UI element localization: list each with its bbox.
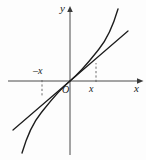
positive-x-tick-label: x — [89, 84, 93, 94]
x-axis-label: x — [134, 83, 139, 94]
graph-canvas — [0, 0, 146, 160]
graph-figure: y x O –x x — [0, 0, 146, 160]
y-axis-label: y — [60, 3, 65, 14]
negative-x-tick-label: –x — [33, 66, 42, 76]
y-axis-arrow-icon — [67, 6, 73, 12]
origin-label: O — [62, 85, 69, 95]
